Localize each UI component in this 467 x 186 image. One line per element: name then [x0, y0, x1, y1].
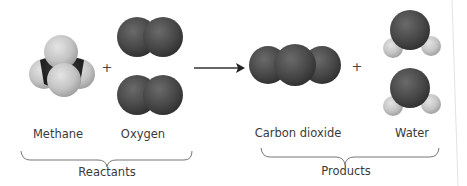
- label-water: Water: [395, 126, 429, 140]
- plus-sign-reactants: +: [102, 60, 113, 75]
- carbon-dioxide-molecule-icon: [249, 44, 341, 86]
- water-molecule-icon: [383, 68, 441, 116]
- plus-sign-products: +: [352, 59, 363, 74]
- oxygen-molecule-icon: [117, 17, 183, 57]
- page-edge-line: [452, 0, 458, 186]
- label-reactants: Reactants: [78, 165, 135, 179]
- water-molecule-icon: [383, 10, 441, 58]
- label-oxygen: Oxygen: [121, 127, 165, 141]
- methane-molecule-icon: [29, 35, 95, 97]
- label-methane: Methane: [33, 127, 83, 141]
- oxygen-molecule-icon: [117, 75, 183, 115]
- reaction-arrow-icon: [194, 63, 245, 73]
- products-brace: [261, 148, 439, 165]
- reaction-diagram: [0, 0, 467, 186]
- label-carbon-dioxide: Carbon dioxide: [255, 126, 342, 140]
- label-products: Products: [321, 164, 371, 178]
